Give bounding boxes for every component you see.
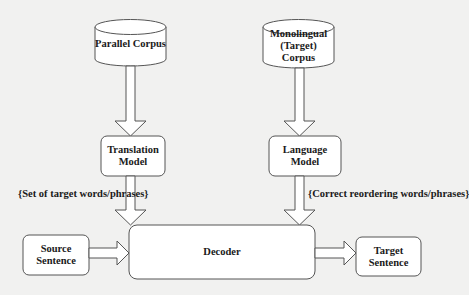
edge-label-tm-decoder: {Set of target words/phrases} [18, 188, 148, 199]
translation-model-line1: Translation [107, 144, 159, 156]
edge-label-lm-decoder: {Correct reordering words/phrases} [308, 188, 469, 199]
arrow-parallel-to-tm [115, 66, 146, 136]
translation-model-label: Translation Model [101, 136, 165, 176]
monolingual-line2: (Target) Corpus [263, 40, 334, 64]
monolingual-corpus-label: Monolingual (Target) Corpus [263, 31, 334, 61]
arrow-mono-to-lm [284, 68, 315, 136]
monolingual-line1: Monolingual [270, 28, 327, 40]
arrow-lm-to-decoder [284, 176, 315, 225]
arrow-source-to-decoder [89, 241, 129, 265]
source-sentence-label: Source Sentence [23, 235, 89, 275]
arrow-tm-to-decoder [115, 176, 146, 225]
language-model-label: Language Model [269, 136, 341, 176]
decoder-label: Decoder [129, 225, 315, 279]
translation-model-line2: Model [119, 156, 148, 168]
parallel-corpus-label: Parallel Corpus [95, 31, 166, 57]
arrow-decoder-to-target [315, 241, 356, 265]
target-sentence-label: Target Sentence [356, 237, 421, 276]
